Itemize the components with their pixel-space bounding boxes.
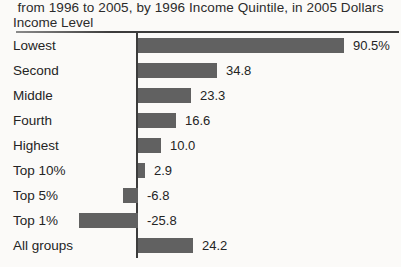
chart-row: Lowest 90.5% bbox=[0, 33, 401, 58]
chart-row: Top 1% -25.8 bbox=[0, 208, 401, 233]
bar bbox=[138, 38, 344, 53]
category-label: Highest bbox=[0, 138, 138, 153]
bar bbox=[138, 113, 176, 128]
bar bbox=[138, 238, 193, 253]
value-label: -6.8 bbox=[147, 188, 169, 203]
bar-area: 2.9 bbox=[138, 158, 401, 183]
value-label: 90.5% bbox=[353, 38, 390, 53]
bar-area: 10.0 bbox=[138, 133, 401, 158]
bar-area: 90.5% bbox=[138, 33, 401, 58]
chart-row: Middle 23.3 bbox=[0, 83, 401, 108]
chart-area: Lowest 90.5% Second 34.8 Middle 23.3 Fou… bbox=[0, 33, 401, 258]
value-label: 2.9 bbox=[154, 163, 172, 178]
category-label: All groups bbox=[0, 238, 138, 253]
bar bbox=[123, 188, 138, 203]
bar-chart-figure: from 1996 to 2005, by 1996 Income Quinti… bbox=[0, 0, 401, 267]
category-label: Lowest bbox=[0, 38, 138, 53]
chart-row: Top 10% 2.9 bbox=[0, 158, 401, 183]
value-label: 24.2 bbox=[202, 238, 227, 253]
bar bbox=[138, 88, 191, 103]
category-label: Second bbox=[0, 63, 138, 78]
chart-row: Second 34.8 bbox=[0, 58, 401, 83]
bar-area: -25.8 bbox=[138, 208, 401, 233]
category-label: Middle bbox=[0, 88, 138, 103]
bar-area: 16.6 bbox=[138, 108, 401, 133]
bar-area: 24.2 bbox=[138, 233, 401, 258]
chart-title: from 1996 to 2005, by 1996 Income Quinti… bbox=[0, 0, 401, 15]
chart-row: All groups 24.2 bbox=[0, 233, 401, 258]
bar-area: 23.3 bbox=[138, 83, 401, 108]
value-label: 23.3 bbox=[200, 88, 225, 103]
bar bbox=[138, 63, 217, 78]
y-axis-title: Income Level bbox=[13, 15, 93, 30]
chart-row: Highest 10.0 bbox=[0, 133, 401, 158]
bar-area: -6.8 bbox=[138, 183, 401, 208]
bar bbox=[138, 138, 161, 153]
chart-row: Top 5% -6.8 bbox=[0, 183, 401, 208]
value-label: 10.0 bbox=[170, 138, 195, 153]
bar bbox=[138, 163, 145, 178]
bar bbox=[79, 213, 138, 228]
category-label: Top 10% bbox=[0, 163, 138, 178]
bar-area: 34.8 bbox=[138, 58, 401, 83]
value-label: -25.8 bbox=[147, 213, 177, 228]
category-label: Top 5% bbox=[0, 188, 138, 203]
value-label: 34.8 bbox=[226, 63, 251, 78]
chart-row: Fourth 16.6 bbox=[0, 108, 401, 133]
category-label: Fourth bbox=[0, 113, 138, 128]
value-label: 16.6 bbox=[185, 113, 210, 128]
